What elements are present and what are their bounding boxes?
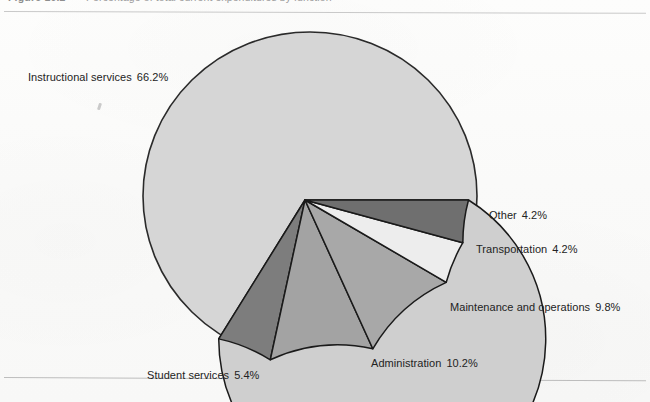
slice-label-maintenance-and-operations: Maintenance and operations9.8% [450, 301, 620, 313]
pie-chart: Instructional services66.2% Other4.2% Tr… [0, 12, 650, 377]
slice-label-name: Instructional services [28, 71, 132, 83]
slice-label-name: Maintenance and operations [450, 301, 590, 313]
slice-label-value: 66.2% [137, 71, 168, 83]
figure-caption: Figure 10.2 Percentage of total current … [0, 0, 650, 7]
slice-label-name: Administration [371, 357, 441, 369]
pie-svg [132, 16, 484, 366]
figure-number: Figure 10.2 [8, 0, 66, 3]
figure-page: Figure 10.2 Percentage of total current … [0, 0, 650, 402]
slice-label-value: 4.2% [522, 209, 547, 221]
slice-label-transportation: Transportation4.2% [476, 243, 578, 255]
slice-label-administration: Administration10.2% [371, 357, 478, 369]
slice-label-other: Other4.2% [489, 209, 547, 221]
scan-artifact-speck [97, 103, 102, 111]
pie-graphic [132, 16, 484, 366]
slice-label-student-services: Student services5.4% [147, 369, 259, 381]
slice-label-name: Transportation [476, 243, 547, 255]
slice-label-value: 10.2% [446, 357, 477, 369]
slice-label-value: 5.4% [234, 369, 259, 381]
figure-title: Percentage of total current expenditures… [86, 0, 332, 3]
slice-label-value: 4.2% [552, 243, 577, 255]
slice-label-name: Other [489, 209, 517, 221]
slice-label-value: 9.8% [595, 301, 620, 313]
slice-label-name: Student services [147, 369, 229, 381]
slice-label-instructional-services: Instructional services66.2% [28, 71, 168, 83]
